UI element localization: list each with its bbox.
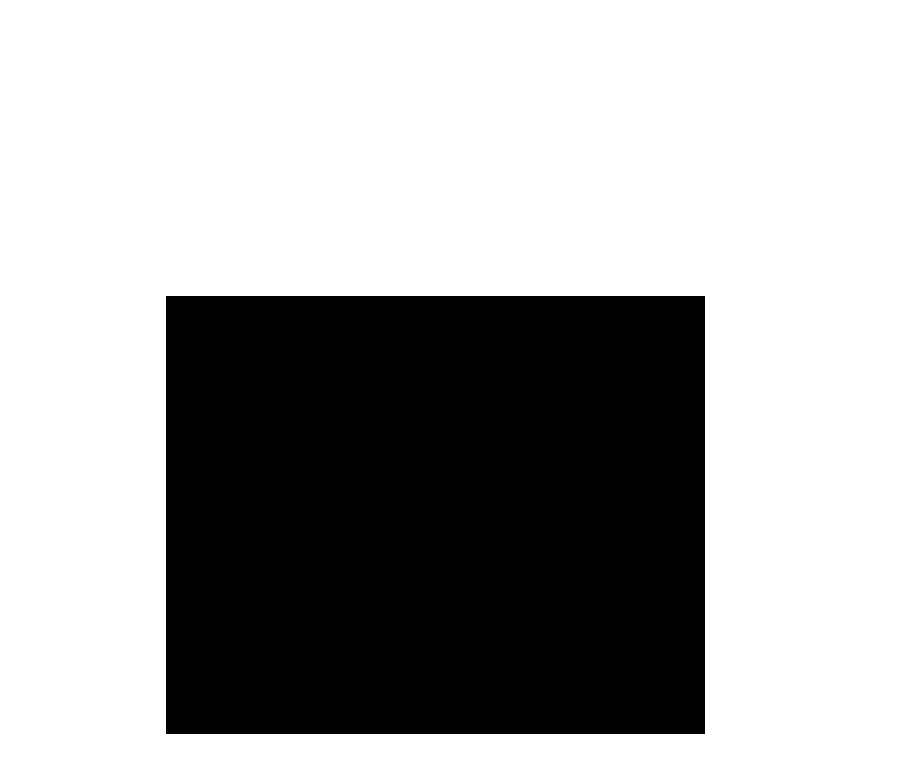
region-a [334, 566, 540, 734]
diagram-canvas [0, 0, 900, 773]
